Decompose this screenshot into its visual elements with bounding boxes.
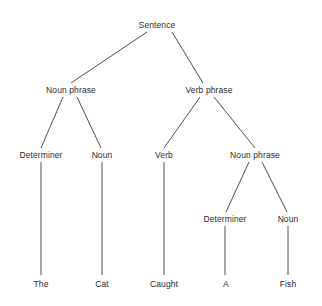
node-np2: Noun phrase — [230, 150, 280, 160]
edge-np2-n2 — [262, 162, 287, 212]
node-w1: The — [34, 279, 49, 289]
node-n2: Noun — [278, 214, 299, 224]
node-s: Sentence — [139, 20, 176, 30]
node-det2: Determiner — [203, 214, 246, 224]
node-n1: Noun — [92, 150, 113, 160]
parse-tree-diagram: SentenceNoun phraseVerb phraseDeterminer… — [0, 0, 322, 306]
edge-vp-np2 — [214, 97, 255, 148]
node-w5: Fish — [280, 279, 296, 289]
edge-np1-det1 — [41, 97, 63, 148]
node-vp: Verb phrase — [186, 85, 233, 95]
edge-s-vp — [172, 32, 203, 83]
node-w3: Caught — [150, 279, 178, 289]
edge-np2-det2 — [226, 162, 249, 212]
node-w2: Cat — [95, 279, 109, 289]
edge-np1-n1 — [77, 97, 101, 148]
node-det1: Determiner — [19, 150, 62, 160]
node-np1: Noun phrase — [46, 85, 96, 95]
edge-s-np1 — [71, 32, 147, 83]
edge-vp-v — [164, 97, 200, 148]
node-v: Verb — [155, 150, 173, 160]
node-w4: A — [223, 279, 229, 289]
